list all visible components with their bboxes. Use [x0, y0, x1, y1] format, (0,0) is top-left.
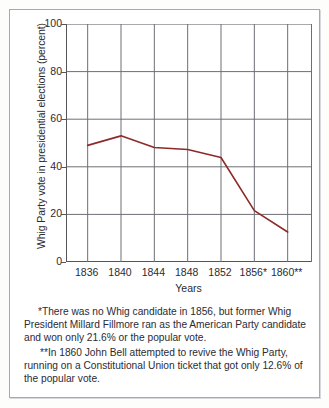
footnotes: *There was no Whig candidate in 1856, bu… [24, 305, 307, 386]
plot-area [66, 24, 311, 262]
y-tick-mark [61, 262, 66, 263]
y-axis-title: Whig Party vote in presidential election… [35, 14, 47, 259]
y-tick-label: 40 [32, 160, 62, 172]
vertical-gridlines [88, 24, 288, 262]
y-tick-label: 100 [32, 17, 62, 29]
x-tick-label: 1860** [264, 266, 310, 278]
chart-figure: Whig Party vote in presidential election… [0, 0, 329, 408]
plot-block: Whig Party vote in presidential election… [0, 0, 329, 300]
footnote-1856: *There was no Whig candidate in 1856, bu… [24, 305, 307, 345]
y-tick-label: 20 [32, 207, 62, 219]
x-axis-title: Years [66, 282, 311, 294]
y-tick-label: 0 [32, 255, 62, 267]
y-tick-label: 80 [32, 65, 62, 77]
footnote-1860: **In 1860 John Bell attempted to revive … [24, 346, 307, 386]
y-tick-label: 60 [32, 112, 62, 124]
grid-and-series [67, 24, 312, 262]
horizontal-gridlines [67, 24, 312, 262]
